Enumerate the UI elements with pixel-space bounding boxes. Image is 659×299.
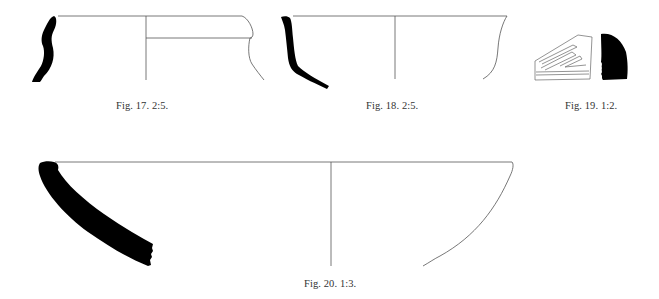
figure-drawings <box>0 0 659 299</box>
fig19-drawing <box>535 34 628 80</box>
fig17-caption: Fig. 17. 2:5. <box>116 100 168 111</box>
fig20-sherd-profile <box>39 161 154 266</box>
fig18-sherd-profile <box>281 16 329 89</box>
fig19-band-line-2 <box>536 74 589 75</box>
fig20-outer-profile <box>423 162 513 266</box>
fig18-drawing <box>281 16 507 89</box>
fig17-drawing <box>32 16 264 82</box>
fig18-caption: Fig. 18. 2:5. <box>366 100 418 111</box>
fig18-outer-profile <box>483 16 507 79</box>
fig19-caption: Fig. 19. 1:2. <box>565 100 617 111</box>
fig19-chevron-3 <box>560 56 586 67</box>
fig19-decorated-face <box>535 35 592 80</box>
fig19-band-line-1 <box>536 71 589 72</box>
fig17-sherd-profile <box>32 16 56 82</box>
fig20-caption: Fig. 20. 1:3. <box>304 278 356 289</box>
fig19-chevron-1 <box>539 45 577 64</box>
fig17-outer-profile <box>242 16 264 80</box>
fig19-section-profile <box>601 34 628 80</box>
fig20-drawing <box>39 161 514 266</box>
